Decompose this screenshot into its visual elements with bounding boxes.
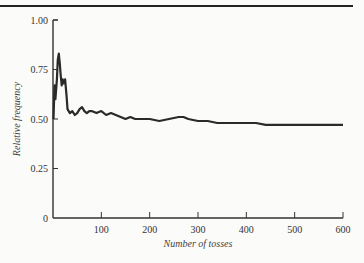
axes [53, 20, 343, 218]
line-chart: 00.250.500.751.00100200300400500600 Numb… [0, 0, 364, 263]
x-tick-label: 200 [142, 224, 157, 235]
y-tick-label: 1.00 [31, 15, 49, 26]
x-tick-label: 400 [239, 224, 254, 235]
y-tick-label: 0 [43, 213, 48, 224]
x-axis-title: Number of tosses [163, 238, 233, 249]
x-tick-label: 600 [336, 224, 351, 235]
x-tick-label: 500 [287, 224, 302, 235]
y-tick-label: 0.75 [31, 64, 49, 75]
series-line [54, 54, 344, 125]
y-axis-title: Relative frequency [11, 81, 22, 157]
x-tick-label: 100 [94, 224, 109, 235]
x-tick-label: 300 [191, 224, 206, 235]
y-tick-label: 0.50 [31, 114, 49, 125]
y-tick-label: 0.25 [31, 163, 49, 174]
